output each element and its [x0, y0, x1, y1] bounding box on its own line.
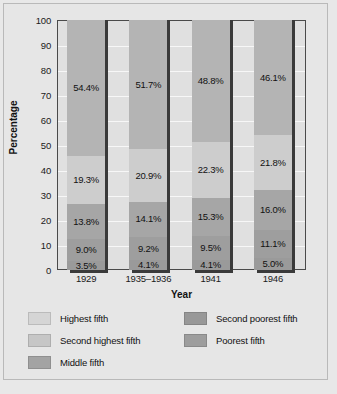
bar-segment[interactable]: 21.8%: [254, 135, 292, 190]
x-axis: 19291935–193619411946: [57, 273, 306, 289]
bar-segment-label: 9.0%: [76, 245, 97, 255]
bar-segment[interactable]: 15.3%: [192, 198, 230, 236]
bar-segment[interactable]: 51.7%: [129, 20, 167, 149]
bar-segment[interactable]: 9.0%: [67, 239, 105, 262]
bar-segment[interactable]: 5.0%: [254, 258, 292, 271]
legend-label: Second poorest fifth: [216, 313, 298, 324]
bar-segment[interactable]: 9.2%: [129, 237, 167, 260]
legend-label: Poorest fifth: [216, 335, 265, 346]
y-axis-tick-label: 30: [41, 190, 51, 201]
bar-segment[interactable]: 19.3%: [67, 156, 105, 204]
y-axis-tick-label: 40: [41, 165, 51, 176]
y-axis: Percentage 0102030405060708090100: [0, 14, 55, 266]
bar-group: 46.1%21.8%16.0%11.1%5.0%: [254, 20, 292, 270]
bar-segment-label: 13.8%: [73, 217, 99, 227]
bar-segment[interactable]: 11.1%: [254, 230, 292, 258]
bar-group: 48.8%22.3%15.3%9.5%4.1%: [192, 20, 230, 270]
bar-segment-label: 9.5%: [200, 243, 221, 253]
chart-figure: Percentage 0102030405060708090100 54.4%1…: [0, 0, 337, 394]
legend-column-left: Highest fifthSecond highest fifthMiddle …: [28, 307, 140, 373]
bar-group: 51.7%20.9%14.1%9.2%4.1%: [129, 20, 167, 270]
stacked-bar[interactable]: 54.4%19.3%13.8%9.0%3.5%: [67, 20, 105, 270]
bar-segment[interactable]: 14.1%: [129, 202, 167, 237]
bar-segment-label: 15.3%: [198, 212, 224, 222]
bar-segment-label: 5.0%: [262, 259, 283, 269]
x-axis-tick-label: 1929: [76, 273, 96, 284]
bar-segment[interactable]: 16.0%: [254, 190, 292, 230]
bar-segment[interactable]: 22.3%: [192, 142, 230, 198]
bar-segment[interactable]: 13.8%: [67, 204, 105, 239]
legend-label: Middle fifth: [60, 357, 104, 368]
bar-segment-label: 19.3%: [73, 175, 99, 185]
x-axis-tick-label: 1941: [200, 273, 220, 284]
stacked-bar[interactable]: 48.8%22.3%15.3%9.5%4.1%: [192, 20, 230, 270]
y-axis-tick-label: 70: [41, 90, 51, 101]
bar-segment-label: 46.1%: [260, 73, 286, 83]
stacked-bar[interactable]: 46.1%21.8%16.0%11.1%5.0%: [254, 20, 292, 270]
bar-segment-label: 22.3%: [198, 165, 224, 175]
y-axis-tick-label: 100: [36, 15, 51, 26]
bar-segment[interactable]: 20.9%: [129, 149, 167, 201]
bar-segment[interactable]: 9.5%: [192, 236, 230, 260]
legend: Highest fifthSecond highest fifthMiddle …: [14, 307, 319, 373]
legend-swatch: [28, 312, 51, 325]
legend-label: Highest fifth: [60, 313, 108, 324]
plot-area-wrapper: 54.4%19.3%13.8%9.0%3.5%51.7%20.9%14.1%9.…: [57, 20, 306, 270]
x-axis-title: Year: [57, 289, 306, 300]
y-axis-title: Percentage: [8, 83, 19, 173]
bar-segment[interactable]: 54.4%: [67, 20, 105, 156]
bar-segment-label: 16.0%: [260, 205, 286, 215]
y-axis-tick-label: 20: [41, 215, 51, 226]
legend-label: Second highest fifth: [60, 335, 140, 346]
y-axis-tick-label: 10: [41, 240, 51, 251]
y-axis-tick-label: 60: [41, 115, 51, 126]
y-axis-tick-label: 50: [41, 140, 51, 151]
stacked-bar[interactable]: 51.7%20.9%14.1%9.2%4.1%: [129, 20, 167, 270]
legend-swatch: [184, 334, 207, 347]
bar-segment-label: 51.7%: [135, 80, 161, 90]
bar-segment-label: 20.9%: [135, 171, 161, 181]
legend-swatch: [28, 356, 51, 369]
bar-segment[interactable]: 4.1%: [129, 260, 167, 270]
bar-group: 54.4%19.3%13.8%9.0%3.5%: [67, 20, 105, 270]
legend-item[interactable]: Poorest fifth: [184, 329, 298, 351]
x-axis-tick-label: 1946: [263, 273, 283, 284]
y-axis-tick-label: 90: [41, 40, 51, 51]
bar-segment-label: 48.8%: [198, 76, 224, 86]
y-axis-tick-label: 0: [46, 265, 51, 276]
x-axis-tick-label: 1935–1936: [125, 273, 171, 284]
bar-segment-label: 9.2%: [138, 244, 159, 254]
bar-segment-label: 54.4%: [73, 83, 99, 93]
bar-segment[interactable]: 48.8%: [192, 20, 230, 142]
bar-segment[interactable]: 46.1%: [254, 20, 292, 135]
y-axis-tick-label: 80: [41, 65, 51, 76]
bar-segment-label: 11.1%: [260, 239, 285, 249]
bar-segment[interactable]: 4.1%: [192, 260, 230, 270]
bar-segment-label: 14.1%: [135, 214, 161, 224]
bar-segment-label: 3.5%: [76, 261, 97, 271]
legend-item[interactable]: Second poorest fifth: [184, 307, 298, 329]
bar-segment-label: 21.8%: [260, 158, 286, 168]
legend-swatch: [28, 334, 51, 347]
bar-segment-label: 4.1%: [200, 260, 221, 270]
legend-column-right: Second poorest fifthPoorest fifth: [184, 307, 298, 351]
bar-segment[interactable]: 3.5%: [67, 261, 105, 270]
bar-segment-label: 4.1%: [138, 260, 159, 270]
legend-item[interactable]: Highest fifth: [28, 307, 140, 329]
legend-swatch: [184, 312, 207, 325]
legend-item[interactable]: Middle fifth: [28, 351, 140, 373]
legend-item[interactable]: Second highest fifth: [28, 329, 140, 351]
